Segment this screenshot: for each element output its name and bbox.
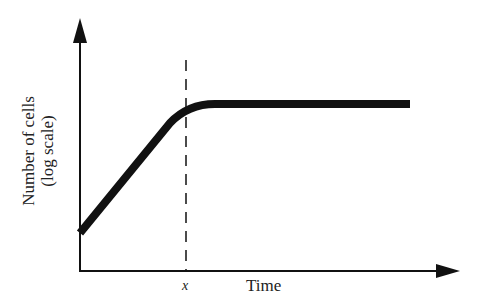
growth-curve xyxy=(80,104,410,233)
x-tick-label: x xyxy=(182,278,188,294)
y-axis-label: Number of cells (log scale) xyxy=(19,96,57,206)
growth-curve-chart xyxy=(0,0,485,308)
x-axis-arrow-icon xyxy=(436,264,460,278)
y-axis-label-line1: Number of cells xyxy=(19,96,38,206)
y-axis-arrow-icon xyxy=(73,18,87,43)
y-axis-label-line2: (log scale) xyxy=(38,96,57,206)
x-axis-label: Time xyxy=(246,276,281,296)
